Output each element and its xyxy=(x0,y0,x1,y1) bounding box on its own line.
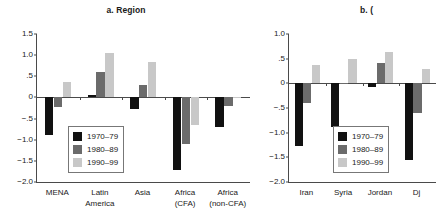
legend-swatch-icon xyxy=(338,158,347,167)
legend-country: 1970–79 1980–89 1990–99 xyxy=(333,126,389,173)
bar xyxy=(139,85,147,98)
legend-item: 1970–79 xyxy=(338,130,383,143)
chart-panel-country: b. ( 1.0.50−.5−1.0−1.5−2.0 1970–79 1980–… xyxy=(252,0,402,216)
bar xyxy=(63,82,71,98)
x-axis-category-label: Africa(non-CFA) xyxy=(209,188,246,209)
bar xyxy=(45,97,53,134)
legend-label: 1990–99 xyxy=(87,159,118,167)
panel-a-title: a. Region xyxy=(0,5,252,15)
x-axis-tick-mark xyxy=(165,97,166,100)
bar xyxy=(215,97,223,127)
y-axis-tick-mark xyxy=(286,58,289,59)
y-axis-tick-mark xyxy=(34,76,37,77)
legend-swatch-icon xyxy=(73,132,82,141)
panel-b-title: b. ( xyxy=(360,5,373,15)
legend-item: 1990–99 xyxy=(73,156,118,169)
legend-region: 1970–79 1980–89 1990–99 xyxy=(68,126,124,173)
bar xyxy=(422,69,430,84)
y-axis-tick-mark xyxy=(286,182,289,183)
bar xyxy=(348,59,356,84)
bar xyxy=(312,65,320,83)
legend-item: 1990–99 xyxy=(338,156,383,169)
bar xyxy=(130,97,138,109)
bar xyxy=(173,97,181,170)
bar xyxy=(96,72,104,97)
x-axis-tick-mark xyxy=(363,83,364,86)
bar xyxy=(405,83,413,159)
bar xyxy=(413,83,421,113)
legend-item: 1980–89 xyxy=(73,143,118,156)
bar xyxy=(368,83,376,86)
legend-swatch-icon xyxy=(338,145,347,154)
y-axis-tick-mark xyxy=(34,182,37,183)
x-axis-category-label: Africa(CFA) xyxy=(175,188,196,209)
bar xyxy=(385,52,393,84)
legend-item: 1970–79 xyxy=(73,130,118,143)
x-axis-category-label: LatinAmerica xyxy=(85,188,114,209)
x-axis-category-label: Iran xyxy=(299,188,313,199)
x-axis-tick-mark xyxy=(122,97,123,100)
legend-label: 1980–89 xyxy=(87,146,118,154)
legend-swatch-icon xyxy=(73,145,82,154)
y-axis-tick-mark xyxy=(286,132,289,133)
legend-label: 1980–89 xyxy=(352,146,383,154)
legend-label: 1990–99 xyxy=(352,159,383,167)
bar xyxy=(88,95,96,97)
y-axis-tick-mark xyxy=(34,139,37,140)
bar xyxy=(295,83,303,146)
y-axis-tick-mark xyxy=(34,160,37,161)
bar xyxy=(224,97,232,105)
y-axis-tick-mark xyxy=(34,34,37,35)
y-axis-tick-mark xyxy=(286,108,289,109)
bar xyxy=(105,53,113,97)
legend-label: 1970–79 xyxy=(352,133,383,141)
legend-item: 1980–89 xyxy=(338,143,383,156)
legend-swatch-icon xyxy=(73,158,82,167)
bar xyxy=(191,97,199,125)
x-axis-category-label: Asia xyxy=(135,188,151,199)
bar xyxy=(233,97,241,98)
y-axis-tick-mark xyxy=(286,34,289,35)
x-axis-category-label: Jordan xyxy=(368,188,392,199)
x-axis-tick-mark xyxy=(326,83,327,86)
y-axis-tick-mark xyxy=(34,118,37,119)
legend-label: 1970–79 xyxy=(87,133,118,141)
y-axis-tick-mark xyxy=(286,157,289,158)
x-axis-tick-mark xyxy=(80,97,81,100)
bar xyxy=(377,63,385,83)
legend-swatch-icon xyxy=(338,132,347,141)
bar xyxy=(340,83,348,84)
bar xyxy=(182,97,190,144)
x-axis-tick-mark xyxy=(399,83,400,86)
x-axis-category-label: Dj xyxy=(413,188,421,199)
chart-panel-region: a. Region 1.51.0.50−.5−1.0−1.5−2.0 1970–… xyxy=(0,0,252,216)
bar xyxy=(303,83,311,103)
y-axis-tick-mark xyxy=(34,55,37,56)
bar xyxy=(54,97,62,106)
bar xyxy=(148,62,156,97)
x-axis-tick-mark xyxy=(207,97,208,100)
bar xyxy=(331,83,339,126)
x-axis-category-label: Syria xyxy=(334,188,352,199)
x-axis-category-label: MENA xyxy=(46,188,69,199)
